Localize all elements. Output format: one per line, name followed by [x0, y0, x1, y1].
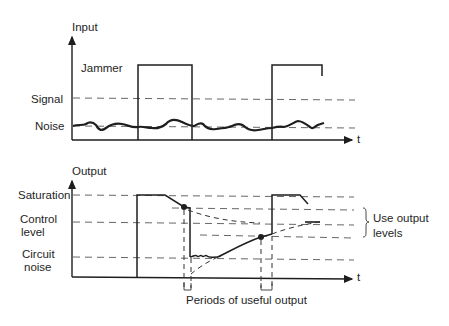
input-t-label: t — [357, 133, 361, 145]
hypothetical-rise-curve — [191, 257, 218, 274]
periods-label: Periods of useful output — [186, 294, 308, 306]
lower-use-level-line — [200, 235, 354, 238]
upper-crossing-dot — [181, 204, 187, 210]
use-levels-brace — [363, 208, 369, 237]
input-axis-label: Input — [72, 21, 98, 33]
circuit-noise-label-2: noise — [24, 261, 52, 273]
noise-label: Noise — [35, 120, 64, 132]
jammer-pulse-2 — [272, 65, 322, 140]
control-level-label-1: Control — [20, 213, 57, 225]
jammer-pulse-1 — [138, 65, 192, 140]
output-t-label: t — [357, 271, 361, 283]
use-output-levels-label-1: Use output — [373, 212, 429, 224]
lower-crossing-dot — [258, 234, 264, 240]
use-output-levels-label-2: levels — [373, 227, 403, 239]
noise-waveform — [73, 120, 324, 130]
input-chart: Input t Jammer Signal Noise — [31, 21, 361, 145]
output-x-axis — [72, 277, 352, 279]
output-chart: Output t Saturation Control level Circui… — [18, 165, 429, 306]
circuit-noise-label-1: Circuit — [22, 248, 55, 260]
jammer-response-diagram: Input t Jammer Signal Noise Output t Sat… — [0, 0, 449, 326]
circuit-noise-wiggle — [190, 255, 218, 257]
output-axis-label: Output — [72, 165, 107, 177]
saturation-level-line — [73, 195, 354, 197]
upper-use-level-line — [172, 208, 354, 210]
hypothetical-decay-curve — [188, 210, 260, 223]
saturation-label: Saturation — [18, 189, 70, 201]
signal-label: Signal — [31, 93, 63, 105]
period-2-bracket — [261, 283, 272, 290]
signal-level-line — [73, 98, 355, 100]
control-level-label-2: level — [21, 226, 45, 238]
jammer-label: Jammer — [81, 62, 123, 74]
period-1-bracket — [184, 283, 191, 290]
